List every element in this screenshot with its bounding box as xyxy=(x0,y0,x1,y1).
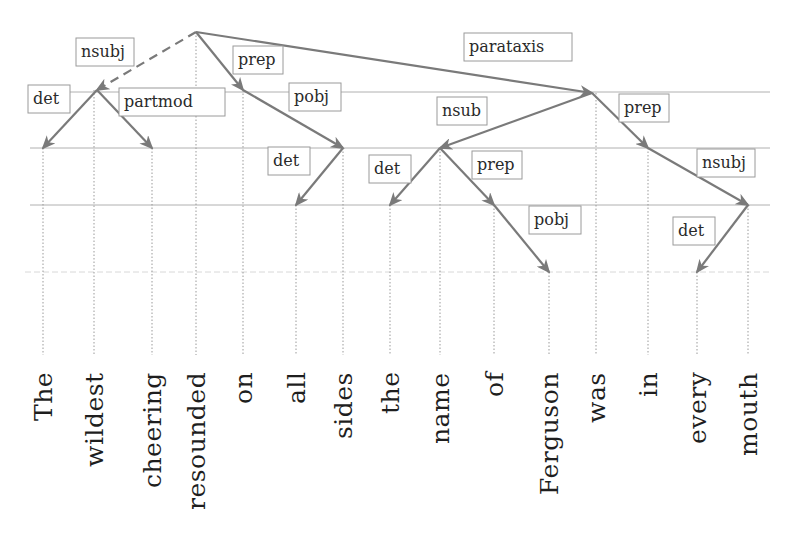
word-column-guides xyxy=(43,32,748,355)
relation-label-det: det xyxy=(673,217,715,245)
token-sides: sides xyxy=(329,372,358,439)
dependency-tree-diagram: nsubjprepparataxisdetpartmodpobjdetnsubp… xyxy=(0,0,803,554)
token-on: on xyxy=(229,372,258,404)
relation-label-parataxis: parataxis xyxy=(464,33,572,61)
relation-label-nsub: nsub xyxy=(437,97,487,125)
relation-label-prep: prep xyxy=(619,94,669,122)
relation-label-det: det xyxy=(369,155,411,183)
svg-text:pobj: pobj xyxy=(294,87,329,106)
relation-label-det: det xyxy=(268,147,310,175)
svg-text:parataxis: parataxis xyxy=(469,37,544,56)
svg-text:det: det xyxy=(374,159,401,178)
token-of: of xyxy=(480,372,509,397)
token-in: in xyxy=(634,372,663,397)
token-name: name xyxy=(426,372,455,444)
dependency-arcs xyxy=(43,32,748,272)
svg-text:det: det xyxy=(33,89,60,108)
relation-label-pobj: pobj xyxy=(289,83,341,111)
token-every: every xyxy=(683,372,712,444)
svg-text:prep: prep xyxy=(238,50,276,69)
svg-text:det: det xyxy=(678,221,705,240)
svg-text:det: det xyxy=(273,151,300,170)
relation-label-prep: prep xyxy=(233,46,283,74)
relation-label-nsubj: nsubj xyxy=(76,38,134,66)
svg-text:nsubj: nsubj xyxy=(81,42,125,61)
svg-text:nsub: nsub xyxy=(442,101,481,120)
token-the: The xyxy=(29,372,58,421)
token-wildest: wildest xyxy=(80,372,109,467)
token-mouth: mouth xyxy=(734,372,763,456)
relation-label-pobj: pobj xyxy=(529,206,581,234)
svg-text:partmod: partmod xyxy=(124,92,193,111)
relation-label-partmod: partmod xyxy=(119,88,225,116)
relation-label-det: det xyxy=(28,85,70,113)
token-ferguson: Ferguson xyxy=(535,372,564,495)
svg-text:pobj: pobj xyxy=(534,210,569,229)
token-was: was xyxy=(582,372,611,423)
token-the: the xyxy=(376,372,405,414)
token-all: all xyxy=(282,372,311,404)
relation-label-nsubj: nsubj xyxy=(697,149,755,177)
relation-label-prep: prep xyxy=(472,151,522,179)
svg-text:prep: prep xyxy=(477,155,515,174)
svg-text:prep: prep xyxy=(624,98,662,117)
token-cheering: cheering xyxy=(138,372,167,488)
relation-labels: nsubjprepparataxisdetpartmodpobjdetnsubp… xyxy=(28,33,755,245)
token-resounded: resounded xyxy=(182,372,211,510)
svg-text:nsubj: nsubj xyxy=(702,153,746,172)
